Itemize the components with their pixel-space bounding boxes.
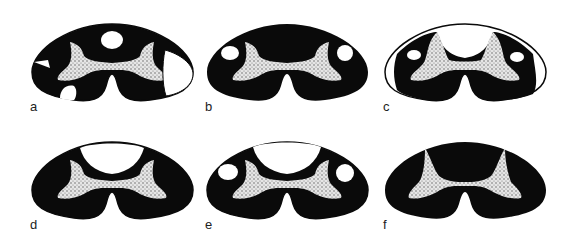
panel-label-b: b: [205, 99, 212, 114]
panel-label-d: d: [30, 217, 37, 232]
panel-label-c: c: [383, 99, 390, 114]
section-b: [207, 24, 368, 101]
section-c: [385, 24, 546, 101]
panel-label-f: f: [383, 217, 387, 232]
panel-label-a: a: [30, 99, 37, 114]
section-a: [32, 24, 193, 101]
section-d: [32, 142, 193, 219]
spinal-cord-figure: [0, 0, 573, 246]
section-f: [385, 142, 546, 219]
panel-label-e: e: [205, 217, 212, 232]
section-e: [207, 142, 368, 219]
